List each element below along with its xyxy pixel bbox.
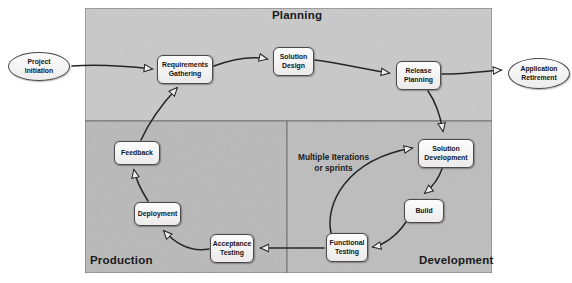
diagram-canvas: Planning Production Development Multiple… <box>0 0 572 283</box>
node-solution-design[interactable]: SolutionDesign <box>273 47 314 76</box>
node-solution-development[interactable]: SolutionDevelopment <box>418 139 474 168</box>
node-build[interactable]: Build <box>404 199 444 223</box>
node-feedback[interactable]: Feedback <box>114 141 160 165</box>
node-deployment[interactable]: Deployment <box>134 202 181 226</box>
node-release-planning[interactable]: ReleasePlanning <box>396 61 441 90</box>
node-requirements-gathering[interactable]: RequirementsGathering <box>157 55 213 84</box>
iterations-note: Multiple Iterationsor sprints <box>298 152 369 173</box>
panel-title-production: Production <box>90 254 153 266</box>
panel-title-planning: Planning <box>272 9 322 21</box>
terminator-project-initiation[interactable]: ProjectInitiation <box>8 52 70 81</box>
panels-and-edges-layer <box>0 0 572 283</box>
terminator-application-retirement[interactable]: ApplicationRetirement <box>508 58 570 89</box>
node-functional-testing[interactable]: FunctionalTesting <box>326 233 368 262</box>
node-acceptance-testing[interactable]: AcceptanceTesting <box>210 234 254 263</box>
panel-title-development: Development <box>419 254 493 266</box>
